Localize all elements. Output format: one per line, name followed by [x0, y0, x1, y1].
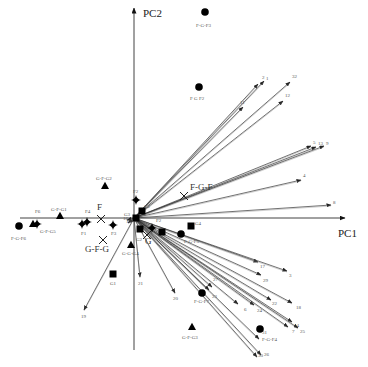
sample-label: G2: [144, 204, 151, 209]
vector-label: 12: [285, 93, 291, 98]
group-centroid: F-G-F: [180, 182, 213, 200]
circle-marker-icon: [177, 230, 185, 238]
vector-arrow-icon: [134, 146, 311, 218]
centroid-label: F: [97, 202, 102, 212]
vector-label: 7: [292, 329, 295, 334]
loading-vector: 8: [134, 200, 336, 219]
triangle-marker-icon: [188, 323, 196, 330]
vector-label: 1: [266, 76, 269, 81]
centroid-label: G-F-G: [85, 244, 109, 254]
vector-label: 9: [326, 141, 329, 146]
vector-arrow-icon: [134, 101, 283, 218]
circle-marker-icon: [15, 222, 23, 230]
sample-point: F2: [131, 189, 141, 205]
triangle-marker-icon: [56, 212, 64, 219]
sample-label: F2: [156, 218, 162, 223]
sample-label: F-G-F3: [196, 23, 212, 28]
vector-label: 30: [258, 353, 264, 358]
vector-arrow-icon: [134, 218, 292, 303]
square-marker-icon: [137, 226, 144, 233]
cross-marker-icon: [97, 215, 105, 223]
vector-arrow-icon: [134, 107, 243, 218]
sample-label: F1: [81, 231, 87, 236]
sample-label: F-G-F4: [262, 337, 278, 342]
sample-label: F-G-F6: [11, 236, 27, 241]
square-marker-icon: [188, 223, 195, 230]
cross-marker-icon: [99, 236, 107, 244]
circle-marker-icon: [201, 8, 209, 16]
sample-point: G1: [110, 271, 117, 287]
vector-shadow-line: [84, 219, 134, 311]
circle-marker-icon: [198, 289, 206, 297]
sample-label: G-F-G1: [51, 207, 67, 212]
sample-label: G1: [110, 281, 117, 286]
vector-shadow-line: [134, 102, 283, 219]
loading-vector: 19: [81, 218, 134, 319]
vector-label: 5: [313, 140, 316, 145]
sample-label: G-F-G3: [182, 335, 198, 340]
sample-label: F6: [35, 209, 41, 214]
vector-label: 20: [173, 296, 179, 301]
sample-point: F-G-F3: [196, 8, 212, 28]
circle-marker-icon: [256, 325, 264, 333]
vector-shadow-line: [134, 219, 288, 328]
sample-label: F3: [111, 231, 117, 236]
vector-label: 32: [292, 74, 298, 79]
vector-label: 8: [333, 200, 336, 205]
sample-label: F G F2: [190, 96, 205, 101]
vector-arrow-icon: [84, 218, 134, 310]
loading-vectors: 1211123251394817329221824614257263031232…: [81, 74, 336, 358]
x-axis-label: PC1: [338, 227, 357, 239]
loading-vector: 3: [134, 218, 292, 278]
vector-label: 13: [318, 141, 324, 146]
vector-shadow-line: [134, 108, 243, 219]
loading-vector: 7: [134, 218, 295, 334]
vector-label: 3: [289, 273, 292, 278]
loading-vector: 6: [134, 218, 247, 312]
vector-label: 27: [213, 277, 219, 282]
sample-point: G4: [188, 221, 202, 230]
vector-arrow-icon: [134, 218, 287, 271]
square-marker-icon: [110, 271, 117, 278]
sample-point: G-F-G2: [96, 176, 112, 189]
centroid-label: F-G-F: [190, 182, 213, 192]
vector-label: 17: [260, 264, 266, 269]
vector-arrow-icon: [134, 218, 238, 304]
vector-label: 19: [81, 314, 87, 319]
sample-point: F G F2: [190, 83, 205, 101]
square-marker-icon: [133, 215, 140, 222]
vector-label: 6: [244, 307, 247, 312]
sample-point: G-F-G3: [182, 323, 198, 340]
sample-label: F2: [133, 189, 139, 194]
vector-arrow-icon: [134, 218, 212, 287]
vector-label: 11: [240, 100, 245, 105]
vector-label: 29: [263, 278, 269, 283]
star-marker-icon: [131, 195, 141, 205]
sample-points: F-G-F3F G F2F-G-F6F-G-F5F-G-F7F-G-F4G-F-…: [11, 8, 278, 342]
vector-label: 25: [300, 329, 306, 334]
vector-arrow-icon: [134, 218, 288, 327]
star-marker-icon: [108, 220, 118, 230]
vector-label: 18: [296, 305, 302, 310]
sample-label: G-F-G5: [40, 229, 56, 234]
vector-arrow-icon: [134, 82, 290, 218]
sample-point: G-F-G5: [29, 220, 56, 234]
sample-label: G4: [195, 221, 202, 226]
circle-marker-icon: [195, 83, 203, 91]
sample-point: F3: [108, 220, 118, 236]
sample-label: G-G-G4: [122, 251, 139, 256]
vector-shadow-line: [134, 83, 290, 219]
vector-label: 4: [303, 173, 306, 178]
sample-label: G2: [136, 237, 143, 242]
axes: PC1PC2: [20, 7, 357, 350]
vector-shadow-line: [134, 219, 209, 291]
sample-label: F-G-F7: [194, 299, 210, 304]
sample-point: G-F-G1: [51, 207, 67, 219]
vector-label: 21: [138, 281, 144, 286]
vector-label: 22: [272, 301, 278, 306]
square-marker-icon: [159, 229, 166, 236]
vector-label: 2: [262, 75, 265, 80]
sample-label: G3: [124, 212, 131, 217]
sample-point: F-G-F6: [11, 222, 27, 241]
loading-vector: 32: [134, 74, 298, 219]
